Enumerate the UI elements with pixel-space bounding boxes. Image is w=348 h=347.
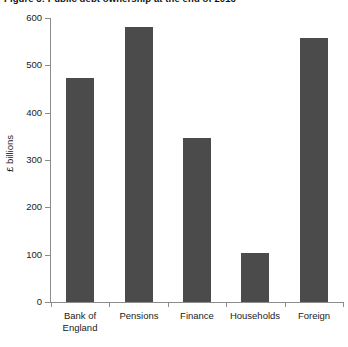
y-axis-tick-label-wrap: 200 — [0, 207, 42, 208]
bar — [300, 38, 328, 302]
y-axis-tick — [45, 207, 51, 208]
y-axis-tick-label: 600 — [8, 12, 42, 23]
y-axis-tick — [45, 18, 51, 19]
y-axis-tick-label: 300 — [8, 154, 42, 165]
y-axis-tick-label-wrap: 300 — [0, 160, 42, 161]
bar — [66, 78, 94, 302]
x-axis-tick — [226, 302, 227, 307]
y-axis-tick-label-wrap: 100 — [0, 255, 42, 256]
y-axis-tick-label-wrap: 0 — [0, 302, 42, 303]
x-axis-tick — [109, 302, 110, 307]
y-axis-tick — [45, 113, 51, 114]
x-axis-tick — [285, 302, 286, 307]
bar — [183, 138, 211, 302]
x-axis-label-line: Foreign — [279, 310, 348, 322]
bar — [241, 253, 269, 302]
y-axis-tick-label-wrap: 600 — [0, 18, 42, 19]
chart-plot-area: £ billions 0100200300400500600 Bank ofEn… — [0, 0, 348, 347]
x-axis-label-line: England — [45, 322, 115, 334]
y-axis-tick-label: 200 — [8, 201, 42, 212]
y-axis-tick-label: 400 — [8, 107, 42, 118]
y-axis-tick — [45, 255, 51, 256]
y-axis-tick-label: 500 — [8, 59, 42, 70]
y-axis-tick — [45, 160, 51, 161]
x-axis-label: Foreign — [279, 310, 348, 322]
y-axis-tick — [45, 65, 51, 66]
x-axis-tick — [168, 302, 169, 307]
y-axis-tick-label-wrap: 400 — [0, 113, 42, 114]
x-axis-line — [50, 302, 343, 303]
bar — [125, 27, 153, 302]
y-axis-tick-label: 0 — [8, 296, 42, 307]
x-axis-tick — [343, 302, 344, 307]
y-axis-tick-label: 100 — [8, 249, 42, 260]
y-axis-tick-label-wrap: 500 — [0, 65, 42, 66]
x-axis-tick — [51, 302, 52, 307]
